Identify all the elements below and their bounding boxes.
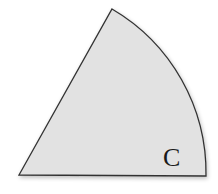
sector-label: C [163, 143, 180, 172]
sector-diagram: C [0, 0, 218, 194]
